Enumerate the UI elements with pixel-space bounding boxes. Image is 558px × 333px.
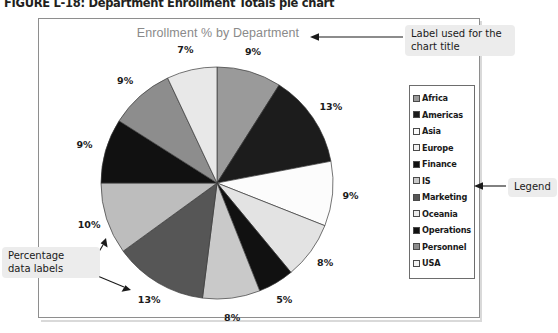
legend-swatch-icon	[413, 243, 420, 250]
pie-data-label: 9%	[245, 46, 261, 57]
callout-legend: Legend	[508, 178, 557, 197]
legend-item-label: Operations	[422, 225, 471, 235]
frame-shadow-bottom	[41, 320, 482, 322]
legend-swatch-icon	[413, 227, 420, 234]
legend-item[interactable]: Africa	[413, 90, 474, 107]
pie-data-label: 9%	[117, 75, 133, 86]
legend-item[interactable]: Finance	[413, 156, 474, 173]
legend-item[interactable]: IS	[413, 173, 474, 190]
pie-svg	[100, 62, 340, 304]
pie-data-label: 10%	[78, 219, 101, 230]
legend-item-label: Oceania	[422, 209, 458, 219]
legend-swatch-icon	[413, 128, 420, 135]
legend-item[interactable]: Marketing	[413, 189, 474, 206]
pie-data-label: 13%	[319, 101, 342, 112]
pie-data-label: 9%	[342, 190, 358, 201]
legend-item-label: IS	[422, 176, 431, 186]
legend-item[interactable]: Oceania	[413, 206, 474, 223]
chart-title[interactable]: Enrollment % by Department	[118, 26, 318, 40]
legend-swatch-icon	[413, 194, 420, 201]
legend-item-label: Africa	[422, 93, 448, 103]
callout-chart-title: Label used for the chart title	[405, 25, 515, 56]
legend-swatch-icon	[413, 177, 420, 184]
pie-data-label: 13%	[138, 294, 161, 305]
callout-data-labels: Percentage data labels	[2, 247, 100, 278]
legend-item-label: Personnel	[422, 242, 466, 252]
legend-swatch-icon	[413, 260, 420, 267]
legend-item-label: Americas	[422, 110, 463, 120]
figure-root: FIGURE L-18: Department Enrollment Total…	[0, 0, 558, 333]
chart-legend[interactable]: AfricaAmericasAsiaEuropeFinanceISMarketi…	[409, 85, 475, 279]
legend-item-label: Asia	[422, 126, 441, 136]
legend-swatch-icon	[413, 95, 420, 102]
legend-item-label: USA	[422, 258, 440, 268]
legend-swatch-icon	[413, 210, 420, 217]
figure-caption: FIGURE L-18: Department Enrollment Total…	[4, 0, 334, 10]
legend-item[interactable]: Americas	[413, 107, 474, 124]
frame-shadow-right	[480, 21, 482, 321]
legend-item-label: Marketing	[422, 192, 467, 202]
legend-item[interactable]: USA	[413, 255, 474, 272]
pie-data-label: 7%	[177, 44, 193, 55]
legend-swatch-icon	[413, 144, 420, 151]
pie-data-label: 8%	[317, 257, 333, 268]
legend-swatch-icon	[413, 161, 420, 168]
legend-item[interactable]: Asia	[413, 123, 474, 140]
pie-data-label: 5%	[276, 294, 292, 305]
legend-item-label: Finance	[422, 159, 457, 169]
pie-slice-group	[101, 67, 333, 299]
legend-item[interactable]: Europe	[413, 140, 474, 157]
legend-item-label: Europe	[422, 143, 453, 153]
pie-data-label: 9%	[76, 139, 92, 150]
legend-swatch-icon	[413, 111, 420, 118]
pie-chart[interactable]	[100, 62, 340, 304]
legend-item[interactable]: Personnel	[413, 239, 474, 256]
pie-data-label: 8%	[224, 312, 240, 323]
legend-item[interactable]: Operations	[413, 222, 474, 239]
